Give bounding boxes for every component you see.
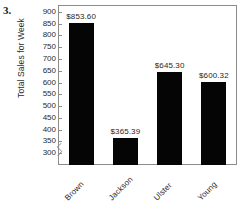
y-axis-tick-mark bbox=[58, 106, 62, 107]
x-axis-category-label: Brown bbox=[63, 180, 86, 202]
bar bbox=[113, 138, 138, 165]
bar-value-label: $645.30 bbox=[148, 61, 192, 70]
y-axis-tick-mark bbox=[58, 47, 62, 48]
y-axis-tick-mark bbox=[58, 130, 62, 131]
y-axis-tick-label: 800 bbox=[34, 31, 56, 39]
bar bbox=[201, 82, 226, 165]
x-axis-category-label: Ulster bbox=[152, 181, 174, 202]
y-axis-tick-label: 400 bbox=[34, 126, 56, 134]
y-axis-tick-label: 900 bbox=[34, 8, 56, 16]
y-axis-tick-mark bbox=[58, 35, 62, 36]
bar-chart-figure: 3. Total Sales for Week 9008508007507006… bbox=[0, 0, 246, 202]
y-axis-tick-mark bbox=[58, 71, 62, 72]
y-axis-tick-label: 550 bbox=[34, 90, 56, 98]
axis-break-icon bbox=[55, 143, 64, 157]
y-axis-tick-label: 650 bbox=[34, 67, 56, 75]
y-axis-tick-label: 350 bbox=[34, 137, 56, 145]
y-axis-tick-label: 850 bbox=[34, 20, 56, 28]
bar-value-label: $853.60 bbox=[59, 12, 103, 21]
y-axis-tick-mark bbox=[58, 83, 62, 84]
x-axis-category-label: Jackson bbox=[107, 175, 135, 202]
y-axis-tick-labels: 900850800750700650600550500450400350300 bbox=[32, 0, 56, 202]
y-axis-tick-mark bbox=[58, 141, 62, 142]
y-axis-tick-label: 750 bbox=[34, 43, 56, 51]
y-axis-tick-mark bbox=[58, 153, 62, 154]
y-axis-tick-label: 600 bbox=[34, 79, 56, 87]
y-axis-tick-mark bbox=[58, 118, 62, 119]
bar bbox=[69, 23, 94, 165]
y-axis-tick-label: 500 bbox=[34, 102, 56, 110]
y-axis-tick-mark bbox=[58, 94, 62, 95]
bar-value-label: $365.39 bbox=[103, 127, 147, 136]
bar bbox=[157, 72, 182, 165]
y-axis-tick-mark bbox=[58, 24, 62, 25]
y-axis-tick-label: 700 bbox=[34, 55, 56, 63]
bars-container bbox=[59, 6, 236, 165]
y-axis-title: Total Sales for Week bbox=[16, 6, 26, 110]
y-axis-tick-label: 300 bbox=[34, 149, 56, 157]
exercise-number-label: 3. bbox=[3, 4, 11, 16]
bar-value-label: $600.32 bbox=[192, 71, 236, 80]
x-axis-category-label: Young bbox=[196, 180, 219, 202]
y-axis-tick-label: 450 bbox=[34, 114, 56, 122]
y-axis-tick-mark bbox=[58, 59, 62, 60]
